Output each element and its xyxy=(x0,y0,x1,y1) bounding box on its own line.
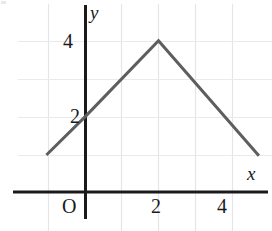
x-tick-label-4: 4 xyxy=(217,196,227,216)
y-tick-label-2: 2 xyxy=(70,106,80,126)
plot-svg xyxy=(0,0,272,231)
origin-label: O xyxy=(62,196,76,216)
x-tick-label-2: 2 xyxy=(151,196,161,216)
y-axis-label: y xyxy=(90,3,98,22)
figure-canvas: 4 2 2 4 O x y xyxy=(0,0,272,231)
y-tick-label-4: 4 xyxy=(63,31,73,51)
data-curve xyxy=(46,41,259,156)
x-axis-label: x xyxy=(247,164,255,183)
grid-lines-horizontal xyxy=(18,42,272,156)
